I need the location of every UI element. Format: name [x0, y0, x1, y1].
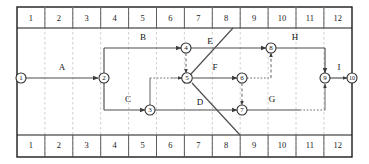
activity-label-B: B — [135, 33, 151, 42]
scale-top-tick: 1 — [17, 14, 45, 23]
activity-label-D: D — [192, 98, 208, 107]
scale-top-tick: 11 — [296, 14, 324, 23]
scale-bottom-tick: 6 — [157, 141, 185, 150]
node-label-5: 5 — [180, 75, 194, 82]
scale-bottom-tick: 3 — [73, 141, 101, 150]
scale-top-tick: 9 — [240, 14, 268, 23]
node-label-6: 6 — [235, 75, 249, 82]
scale-top-tick: 5 — [129, 14, 157, 23]
scale-bottom-tick: 11 — [296, 141, 324, 150]
node-label-2: 2 — [97, 75, 111, 82]
scale-top-tick: 4 — [101, 14, 129, 23]
scale-bottom-tick: 2 — [45, 141, 73, 150]
scale-top-tick: 3 — [73, 14, 101, 23]
scale-top-tick: 12 — [324, 14, 352, 23]
scale-bottom-tick: 7 — [184, 141, 212, 150]
scale-top-tick: 2 — [45, 14, 73, 23]
scale-bottom-tick: 12 — [324, 141, 352, 150]
activity-label-A: A — [54, 63, 70, 72]
activity-label-G: G — [264, 95, 280, 104]
scale-top-tick: 7 — [184, 14, 212, 23]
scale-top-tick: 10 — [268, 14, 296, 23]
scale-bottom-tick: 1 — [17, 141, 45, 150]
activity-label-I: I — [331, 63, 347, 72]
scale-top-tick: 6 — [157, 14, 185, 23]
node-label-1: 1 — [14, 75, 28, 82]
scale-bottom-tick: 9 — [240, 141, 268, 150]
activity-label-E: E — [202, 37, 218, 46]
node-label-8: 8 — [264, 45, 278, 52]
scale-bottom-tick: 8 — [212, 141, 240, 150]
node-label-7: 7 — [235, 107, 249, 114]
scale-bottom-tick: 10 — [268, 141, 296, 150]
network-diagram-figure: 1 2 3 4 5 6 7 8 9 10 11 12 1 2 3 4 5 6 7… — [0, 0, 369, 164]
activity-label-H: H — [287, 33, 303, 42]
scale-bottom-tick: 5 — [129, 141, 157, 150]
edge-D — [192, 83, 240, 135]
activity-label-C: C — [120, 95, 136, 104]
scale-top-tick: 8 — [212, 14, 240, 23]
node-label-4: 4 — [179, 45, 193, 52]
node-label-9: 9 — [318, 75, 332, 82]
scale-bottom-tick: 4 — [101, 141, 129, 150]
node-label-3: 3 — [143, 107, 157, 114]
node-label-10: 10 — [345, 75, 359, 81]
activity-label-F: F — [207, 63, 223, 72]
